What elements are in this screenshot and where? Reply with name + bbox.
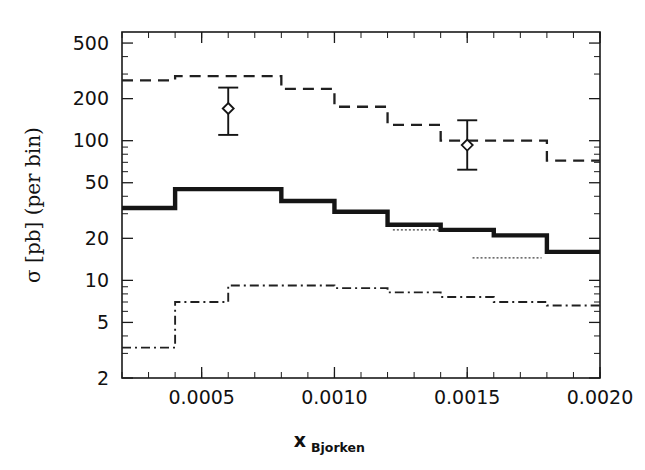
diamond-marker-icon [223, 103, 234, 114]
x-axis-ticks [122, 32, 600, 378]
data-point-with-errorbar [218, 88, 238, 135]
y-axis-tick-labels: 25102050100200500 [73, 32, 109, 389]
y-axis-title-text: σ [pb] (per bin) [21, 127, 45, 283]
y-tick-label: 500 [73, 32, 109, 54]
y-tick-label: 2 [97, 367, 109, 389]
x-tick-label: 0.0010 [301, 386, 367, 408]
x-axis-title-subscript: Bjorken [311, 440, 365, 455]
y-tick-label: 200 [73, 87, 109, 109]
y-axis-title: σ [pb] (per bin) [21, 127, 45, 283]
data-point-with-errorbar [457, 120, 477, 169]
y-tick-label: 100 [73, 129, 109, 151]
x-axis-title-main: x [294, 429, 306, 451]
figure-container: 25102050100200500 0.00050.00100.00150.00… [0, 0, 645, 470]
plot-frame [122, 32, 600, 378]
x-tick-label: 0.0005 [168, 386, 234, 408]
log-log-step-plot: 25102050100200500 0.00050.00100.00150.00… [0, 0, 645, 470]
series-central-prediction-solid [122, 189, 600, 252]
x-axis-title: x Bjorken [294, 429, 365, 455]
series-upper-prediction-dashed [122, 76, 600, 161]
x-tick-label: 0.0015 [434, 386, 500, 408]
y-tick-label: 5 [97, 311, 109, 333]
measured-data-points [218, 88, 477, 170]
x-axis-tick-labels: 0.00050.00100.00150.0020 [168, 386, 633, 408]
y-tick-label: 50 [85, 171, 109, 193]
y-tick-label: 20 [85, 227, 109, 249]
x-tick-label: 0.0020 [567, 386, 633, 408]
series-lower-prediction-dashdot [122, 285, 600, 347]
y-tick-label: 10 [85, 269, 109, 291]
